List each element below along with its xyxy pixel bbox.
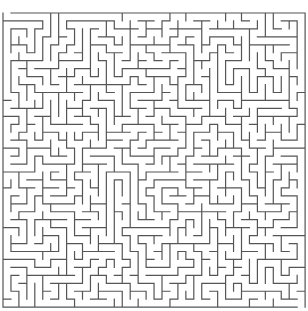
maze-grid	[0, 0, 308, 311]
maze-walls	[3, 13, 305, 307]
maze-board	[0, 0, 308, 311]
